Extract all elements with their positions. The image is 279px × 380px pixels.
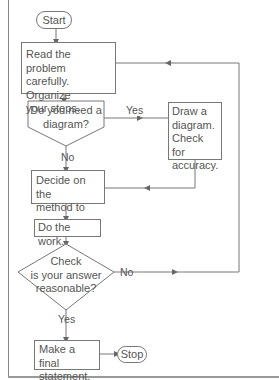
start-label: Start xyxy=(42,14,65,26)
need-line-2: diagram? xyxy=(28,118,104,132)
do-work-box: Do the work. xyxy=(34,219,101,237)
draw-line-2: diagram. xyxy=(172,119,218,133)
check-line-1: Check xyxy=(22,255,110,269)
draw-line-1: Draw a xyxy=(172,105,218,119)
edge-label-yes-1: Yes xyxy=(126,104,143,116)
edge-label-no-2: No xyxy=(120,266,133,278)
check-text: Check is your answer reasonable? xyxy=(22,255,110,296)
read-line-2: carefully. Organize xyxy=(26,75,111,102)
check-line-2: is your answer xyxy=(22,269,110,283)
decide-method-box: Decide on the method to use. xyxy=(31,170,105,204)
start-terminator: Start xyxy=(36,11,72,29)
need-diagram-text: Do you need a diagram? xyxy=(28,104,104,131)
check-line-3: reasonable? xyxy=(22,282,110,296)
edge-label-yes-2: Yes xyxy=(58,313,75,325)
decide-line-1: Decide on the xyxy=(36,174,100,201)
read-problem-box: Read the problem carefully. Organize you… xyxy=(21,42,116,94)
draw-line-4: accuracy. xyxy=(172,159,218,173)
final-statement-box: Make a final statement. xyxy=(34,340,100,370)
edge-label-no-1: No xyxy=(61,151,74,163)
draw-line-3: Check for xyxy=(172,132,218,159)
need-line-1: Do you need a xyxy=(28,104,104,118)
final-line-1: Make a final xyxy=(39,343,95,370)
final-line-2: statement. xyxy=(39,370,95,380)
read-line-1: Read the problem xyxy=(26,48,111,75)
draw-diagram-box: Draw a diagram. Check for accuracy. xyxy=(168,102,222,160)
stop-label: Stop xyxy=(121,348,144,360)
stop-terminator: Stop xyxy=(117,346,147,363)
